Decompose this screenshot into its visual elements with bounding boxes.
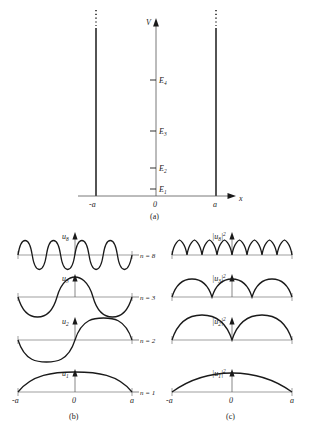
b3-state-label: n = 3 — [140, 294, 156, 302]
b-tick-a: a — [130, 396, 134, 405]
panel-a-tag: (a) — [150, 212, 159, 221]
b2-curve-label: u2 — [62, 317, 69, 327]
v-axis-arrowhead — [153, 18, 159, 27]
panel-c-row-n1: |u1|2 -a 0 a — [166, 368, 294, 405]
b8-state-label: n = 8 — [140, 252, 156, 260]
panel-b-tag: (b) — [69, 412, 79, 421]
energy-level-label-4: E4 — [158, 76, 167, 86]
c2-value-axis-arrowhead — [229, 317, 234, 325]
c8-value-axis-arrowhead — [229, 232, 234, 240]
x-tick-origin: 0 — [153, 200, 157, 209]
panel-c-row-n3: |u3|2 — [172, 273, 292, 301]
b-tick-minus-a: -a — [12, 396, 19, 405]
panel-b-row-n2: u2 n = 2 — [18, 317, 156, 362]
c-tick-origin: 0 — [229, 396, 233, 405]
figure-container: V x -a 0 a E1 E2 E3 E4 (a) u — [0, 0, 312, 430]
b2-state-label: n = 2 — [140, 337, 156, 345]
x-tick-a: a — [213, 200, 217, 209]
b1-curve-label: u1 — [62, 369, 69, 379]
x-tick-minus-a: -a — [89, 200, 96, 209]
c3-value-axis-arrowhead — [229, 274, 234, 282]
v-axis-label: V — [146, 18, 152, 27]
energy-level-label-2: E2 — [158, 164, 167, 174]
b-tick-origin: 0 — [72, 396, 76, 405]
x-axis-arrowhead — [228, 193, 237, 199]
b1-state-label: n = 1 — [140, 389, 155, 397]
panel-a: V x -a 0 a E1 E2 E3 E4 (a) — [78, 10, 243, 221]
panel-b: u8 n = 8 u3 n = 3 u2 — [12, 232, 156, 421]
c3-curve-label: |u3|2 — [212, 273, 226, 283]
panel-b-row-n1: u1 n = 1 -a 0 a — [12, 369, 155, 405]
x-axis-label: x — [238, 194, 243, 203]
panel-b-row-n3: u3 n = 3 — [18, 274, 156, 317]
b2-value-axis-arrowhead — [72, 317, 77, 325]
panel-c-tag: (c) — [226, 412, 235, 421]
physics-figure: V x -a 0 a E1 E2 E3 E4 (a) u — [0, 0, 312, 430]
c-tick-minus-a: -a — [166, 396, 173, 405]
b8-value-axis-arrowhead — [72, 232, 77, 240]
panel-c-row-n2: |u2|2 — [172, 315, 292, 344]
energy-level-label-1: E1 — [158, 185, 167, 195]
panel-b-row-n8: u8 n = 8 — [18, 232, 156, 270]
panel-c: |u8|2 |u3|2 |u2|2 — [166, 231, 294, 421]
b8-curve-label: u8 — [62, 232, 69, 242]
panel-c-row-n8: |u8|2 — [172, 231, 292, 259]
energy-level-label-3: E3 — [158, 127, 167, 137]
b1-value-axis-arrowhead — [72, 369, 77, 377]
c-tick-a: a — [290, 396, 294, 405]
